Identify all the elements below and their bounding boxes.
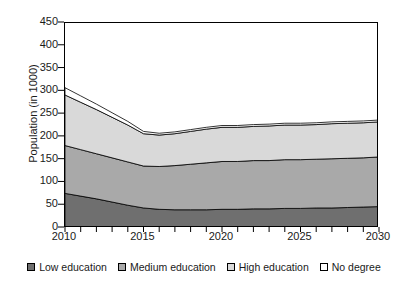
stacked-area-chart: Population (in 1000) 0501001502002503003… [0, 0, 408, 282]
legend-item-medium-education[interactable]: Medium education [118, 261, 216, 273]
legend-item-label: Low education [39, 261, 107, 273]
legend-item-low-education[interactable]: Low education [27, 261, 107, 273]
x-tick-label: 2015 [119, 230, 167, 243]
plot-area [64, 22, 378, 227]
y-tick-label: 50 [4, 198, 58, 209]
y-tick-label: 300 [4, 84, 58, 95]
x-tick-label: 2030 [354, 230, 402, 243]
x-tick-label: 2010 [40, 230, 88, 243]
chart-legend: Low educationMedium educationHigh educat… [0, 258, 408, 276]
legend-item-high-education[interactable]: High education [227, 261, 309, 273]
legend-swatch-icon [27, 263, 35, 271]
area-band-high-education [65, 95, 378, 167]
x-tick-label: 2020 [197, 230, 245, 243]
legend-item-label: No degree [332, 261, 381, 273]
y-tick-label: 250 [4, 107, 58, 118]
legend-swatch-icon [118, 263, 126, 271]
y-tick-label: 200 [4, 130, 58, 141]
y-tick-label: 150 [4, 153, 58, 164]
x-tick-label: 2025 [276, 230, 324, 243]
legend-swatch-icon [320, 263, 328, 271]
legend-item-no-degree[interactable]: No degree [320, 261, 381, 273]
legend-item-label: Medium education [130, 261, 216, 273]
area-series-group [65, 23, 378, 227]
y-tick-label: 450 [4, 16, 58, 27]
legend-item-label: High education [239, 261, 309, 273]
y-tick-label: 100 [4, 175, 58, 186]
legend-swatch-icon [227, 263, 235, 271]
x-axis-tick-labels: 20102015202020252030 [0, 230, 408, 246]
y-tick-label: 400 [4, 39, 58, 50]
y-tick-label: 350 [4, 62, 58, 73]
